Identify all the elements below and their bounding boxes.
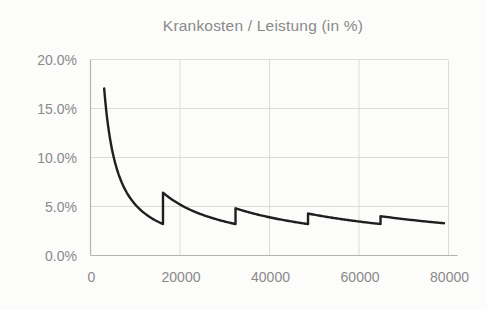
x-axis-tick-label: 60000 [341, 269, 380, 285]
y-axis-tick-label: 20.0% [37, 52, 77, 68]
y-axis-tick-label: 10.0% [37, 150, 77, 166]
y-axis-tick-label: 15.0% [37, 101, 77, 117]
y-axis-tick-label: 5.0% [45, 199, 77, 215]
y-axis-tick-label: 0.0% [45, 248, 77, 264]
x-axis-tick-label: 20000 [162, 269, 201, 285]
x-axis-tick-label: 0 [88, 269, 96, 285]
x-axis-tick-label: 80000 [430, 269, 469, 285]
x-axis-tick-label: 40000 [251, 269, 290, 285]
line-chart-plot: 0.0%5.0%10.0%15.0%20.0%02000040000600008… [0, 0, 487, 310]
chart-container: Krankosten / Leistung (in %) 0.0%5.0%10.… [0, 0, 487, 310]
